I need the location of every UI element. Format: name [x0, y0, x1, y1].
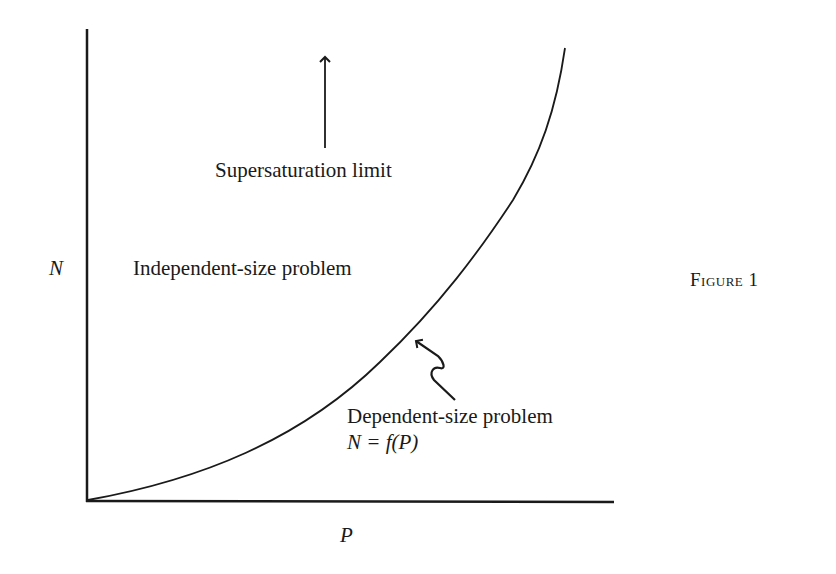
- independent-size-label: Independent-size problem: [133, 258, 352, 279]
- curve-equation-label: N = f(P): [347, 432, 418, 453]
- x-axis: [86, 501, 614, 502]
- figure-caption: Figure 1: [690, 270, 759, 289]
- x-axis-label: P: [340, 525, 353, 546]
- y-axis-label: N: [49, 258, 63, 279]
- dependent-size-label: Dependent-size problem: [347, 406, 553, 427]
- wavy-arrow-icon: [416, 341, 455, 400]
- supersaturation-limit-label: Supersaturation limit: [215, 160, 392, 181]
